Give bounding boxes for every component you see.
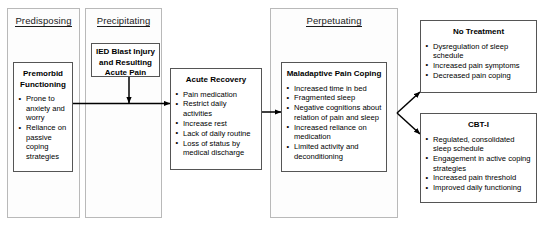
node-no-treatment: No Treatment Dysregulation of sleep sche…: [420, 20, 537, 93]
node-bullets-cbt-i: Regulated, consolidated sleep schedule E…: [425, 135, 532, 193]
node-title-premorbid: Premorbid Functioning: [18, 69, 68, 90]
list-item: Increase rest: [175, 119, 257, 129]
node-title-maladaptive: Maladaptive Pain Coping: [286, 69, 382, 80]
list-item: Pain medication: [175, 90, 257, 100]
node-title-acute-recovery: Acute Recovery: [175, 75, 257, 86]
phase-label-predisposing: Predisposing: [15, 15, 71, 27]
phase-label-perpetuating: Perpetuating: [306, 15, 361, 27]
list-item: Improved daily functioning: [425, 183, 532, 193]
list-item: Increased reliance on medication: [286, 123, 382, 142]
list-item: Decreased pain coping: [425, 71, 532, 81]
node-acute-recovery: Acute Recovery Pain medication Restrict …: [170, 68, 262, 170]
arrow-maladaptive-to-no-treatment: [397, 92, 420, 113]
list-item: Prone to anxiety and worry: [18, 94, 68, 123]
list-item: Negative cognitions about relation of pa…: [286, 103, 382, 122]
list-item: Fragmented sleep: [286, 93, 382, 103]
node-maladaptive-pain-coping: Maladaptive Pain Coping Increased time i…: [281, 62, 387, 172]
list-item: Reliance on passive coping strategies: [18, 123, 68, 161]
diagram-canvas: Predisposing Precipitating Perpetuating: [0, 0, 545, 228]
list-item: Lack of daily routine: [175, 129, 257, 139]
list-item: Restrict daily activities: [175, 99, 257, 118]
node-bullets-maladaptive: Increased time in bed Fragmented sleep N…: [286, 84, 382, 162]
node-premorbid-functioning: Premorbid Functioning Prone to anxiety a…: [13, 62, 73, 172]
node-title-ied: IED Blast Injury and Resulting Acute Pai…: [95, 47, 156, 79]
list-item: Regulated, consolidated sleep schedule: [425, 135, 532, 154]
node-bullets-acute-recovery: Pain medication Restrict daily activitie…: [175, 90, 257, 158]
arrow-maladaptive-to-cbti: [397, 113, 420, 134]
phase-title-precipitating: Precipitating: [86, 15, 161, 27]
phase-title-perpetuating: Perpetuating: [271, 15, 397, 27]
node-bullets-premorbid: Prone to anxiety and worry Reliance on p…: [18, 94, 68, 161]
phase-title-predisposing: Predisposing: [8, 15, 79, 27]
node-cbt-i: CBT-I Regulated, consolidated sleep sche…: [420, 113, 537, 203]
list-item: Increased pain symptoms: [425, 61, 532, 71]
list-item: Engagement in active coping strategies: [425, 154, 532, 173]
list-item: Increased pain threshold: [425, 173, 532, 183]
node-title-cbt-i: CBT-I: [425, 120, 532, 131]
phase-label-precipitating: Precipitating: [97, 15, 151, 27]
list-item: Loss of status by medical discharge: [175, 139, 257, 158]
list-item: Dysregulation of sleep schedule: [425, 42, 532, 61]
node-title-no-treatment: No Treatment: [425, 27, 532, 38]
list-item: Increased time in bed: [286, 84, 382, 94]
phase-container-precipitating: Precipitating: [85, 8, 162, 218]
node-ied-blast-injury: IED Blast Injury and Resulting Acute Pai…: [91, 43, 160, 77]
list-item: Limited activity and deconditioning: [286, 142, 382, 161]
node-bullets-no-treatment: Dysregulation of sleep schedule Increase…: [425, 42, 532, 81]
